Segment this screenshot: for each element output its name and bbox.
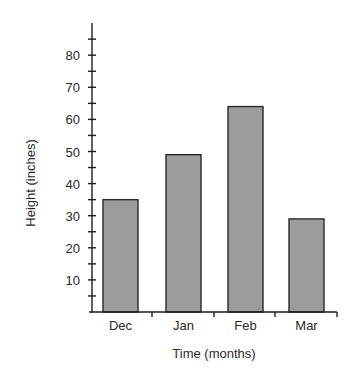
x-tick-label: Mar	[295, 318, 318, 333]
y-tick-label: 60	[66, 112, 80, 127]
x-axis-ticks: DecJanFebMar	[109, 312, 337, 333]
y-tick-label: 80	[66, 48, 80, 63]
x-tick-label: Jan	[173, 318, 194, 333]
y-axis-title: Height (inches)	[23, 139, 38, 226]
bar-dec	[103, 200, 138, 312]
bar-chart: 1020304050607080 DecJanFebMar Time (mont…	[0, 0, 355, 382]
bars	[103, 107, 324, 312]
bar-mar	[289, 219, 324, 312]
x-tick-label: Feb	[234, 318, 256, 333]
x-tick-label: Dec	[109, 318, 133, 333]
bar-jan	[166, 155, 201, 312]
y-tick-label: 30	[66, 209, 80, 224]
y-tick-label: 70	[66, 80, 80, 95]
bar-feb	[228, 107, 263, 312]
y-tick-label: 20	[66, 241, 80, 256]
y-tick-label: 50	[66, 145, 80, 160]
y-tick-label: 10	[66, 273, 80, 288]
x-axis-title: Time (months)	[172, 346, 255, 361]
y-tick-label: 40	[66, 177, 80, 192]
